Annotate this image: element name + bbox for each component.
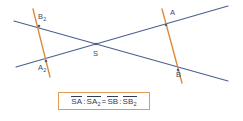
point-marker-S	[95, 43, 98, 46]
formula-term-SA2: SA2	[87, 96, 101, 106]
point-marker-A2	[45, 60, 48, 63]
point-label-A-base: A	[170, 8, 175, 17]
point-marker-A	[165, 24, 168, 27]
formula-box: SA:SA2=SB:SB2	[58, 92, 150, 110]
point-label-A: A	[170, 9, 175, 17]
formula-term-SB2-sub: 2	[133, 101, 136, 107]
point-marker-B2	[38, 25, 41, 28]
formula-term-SB-base: SB	[107, 97, 118, 106]
formula-term-SB2: SB2	[123, 96, 137, 106]
formula-term-SA2-base: SA	[87, 97, 98, 106]
point-label-B2: B2	[38, 13, 46, 21]
point-label-B: B	[176, 71, 181, 79]
ray-lower-left-to-upper-right	[16, 6, 228, 67]
point-label-B-base: B	[176, 70, 181, 79]
formula-term-SB: SB	[107, 96, 118, 106]
diagram-canvas: B2 A2 A B S SA:SA2=SB:SB2	[0, 0, 243, 121]
formula-term-SB2-base: SB	[123, 97, 134, 106]
formula-term-SA: SA	[71, 96, 82, 106]
point-label-B2-sub: 2	[43, 16, 46, 22]
ray-upper-left-to-lower-right	[14, 21, 228, 81]
formula-term-SA-base: SA	[71, 97, 82, 106]
point-label-A2-sub: 2	[43, 67, 46, 73]
formula-equals-sign: =	[101, 97, 108, 106]
point-label-S-base: S	[93, 49, 98, 58]
formula-text: SA:SA2=SB:SB2	[71, 96, 136, 106]
point-label-S: S	[93, 50, 98, 58]
point-label-A2: A2	[38, 64, 46, 72]
formula-term-SA2-sub: 2	[97, 101, 100, 107]
